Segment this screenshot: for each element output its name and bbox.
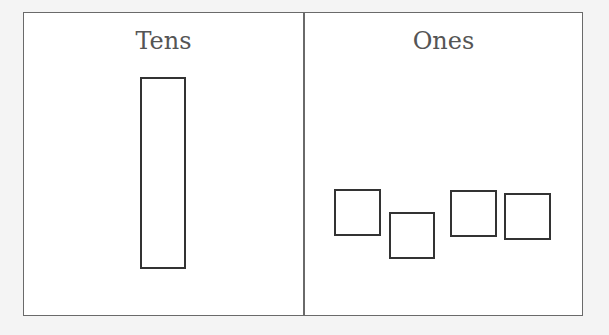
column-divider xyxy=(303,13,305,315)
tens-heading: Tens xyxy=(24,27,303,55)
ones-cube xyxy=(450,190,497,237)
tens-rod xyxy=(140,77,186,269)
ones-cube xyxy=(504,193,551,240)
ones-heading: Ones xyxy=(304,27,583,55)
ones-cube xyxy=(334,189,381,236)
place-value-chart: Tens Ones xyxy=(23,12,583,316)
ones-cube xyxy=(389,212,435,259)
